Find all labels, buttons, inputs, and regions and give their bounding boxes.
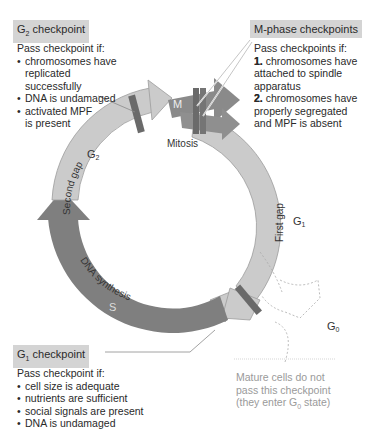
g1-condition: nutrients are sufficient (17, 392, 177, 405)
m-intro: Pass checkpoints if: (254, 42, 366, 55)
m-condition-text: chromosomes have attached to spindle app… (254, 55, 357, 92)
g2-title-letter: G (17, 23, 26, 35)
g2-label: G2 (87, 148, 100, 161)
g2-checkpoint-title: G2 checkpoint (13, 20, 89, 43)
g1-condition: cell size is adequate (17, 380, 177, 393)
g2-checkpoint-conditions: Pass checkpoint if: chromosomes have rep… (17, 42, 127, 130)
m-condition: 1. chromosomes have attached to spindle … (254, 55, 366, 93)
g0-note-line: (they enter G0 state) (236, 396, 356, 414)
g1-title-letter: G (17, 348, 26, 360)
m-condition-num: 2. (254, 92, 263, 104)
g0-dashed-arrow (262, 280, 320, 318)
g0-note-line: Mature cells do not (236, 371, 356, 384)
g1-pointer-line (105, 330, 215, 352)
g1-checkpoint-title: G1 checkpoint (13, 345, 89, 368)
first-gap-label: First gap (274, 203, 285, 242)
mitosis-label: Mitosis (167, 138, 198, 149)
g2-condition: activated MPF is present (17, 105, 100, 130)
s-phase-arc (48, 218, 228, 333)
g2-intro: Pass checkpoint if: (17, 42, 127, 55)
g0-note-dashed-pointer (275, 322, 288, 362)
m-condition-text: chromosomes have properly segregated and… (254, 92, 357, 129)
g0-note-post: state) (301, 396, 330, 408)
g1-label: G1 (293, 215, 306, 228)
g1-condition: DNA is undamaged (17, 417, 177, 430)
g1-condition: social signals are present (17, 405, 177, 418)
g1-title-rest: checkpoint (29, 348, 85, 360)
g1-checkpoint-conditions: Pass checkpoint if: cell size is adequat… (17, 367, 177, 430)
s-label: S (109, 301, 116, 313)
g0-note-pre: (they enter G (236, 396, 297, 408)
m-checkpoint-title: M-phase checkpoints (250, 20, 362, 38)
m-label: M (173, 98, 182, 110)
g0-note-line: pass this checkpoint (236, 384, 356, 397)
g0-note: Mature cells do not pass this checkpoint… (236, 371, 356, 414)
g2-title-rest: checkpoint (29, 23, 85, 35)
g2-condition: DNA is undamaged (17, 92, 127, 105)
g0-label: G0 (327, 320, 340, 333)
m-checkpoint-conditions: Pass checkpoints if: 1. chromosomes have… (254, 42, 366, 130)
m-condition: 2. chromosomes have properly segregated … (254, 92, 366, 130)
m-condition-num: 1. (254, 55, 263, 67)
g1-phase-arc (192, 112, 281, 305)
g1-intro: Pass checkpoint if: (17, 367, 177, 380)
m-checkpoint-bar-1 (193, 88, 199, 134)
g2-condition: chromosomes have replicated successfully (17, 55, 127, 93)
